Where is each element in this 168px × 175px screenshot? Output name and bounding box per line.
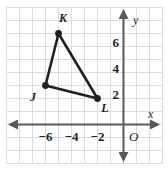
coordinate-graph-figure: 6 4 2 −6 −4 −2 O y x J K L [0,0,168,175]
y-tick-label-6: 6 [113,35,120,50]
vertex-point-l [94,95,101,102]
y-tick-label-2: 2 [113,87,120,102]
graph-canvas: 6 4 2 −6 −4 −2 O y x J K L [0,0,168,175]
vertex-point-k [55,30,62,37]
y-tick-label-4: 4 [113,61,120,76]
x-tick-label-neg4: −4 [65,129,79,144]
vertex-label-k: K [58,11,68,25]
x-tick-label-neg2: −2 [91,129,105,144]
x-axis-label: x [147,107,154,121]
vertex-label-l: L [100,101,108,115]
vertex-label-j: J [29,90,37,104]
y-axis-label: y [132,13,139,27]
x-tick-label-neg6: −6 [39,129,53,144]
vertex-point-j [42,82,49,89]
origin-label: O [129,129,139,144]
